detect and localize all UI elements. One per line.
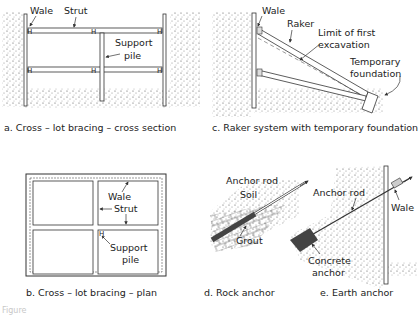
grout-label: Grout [236, 235, 263, 246]
limit-label-2: excavation [318, 39, 370, 50]
svg-text:H: H [99, 230, 104, 238]
caption-c: c. Raker system with temporary foundatio… [212, 122, 418, 133]
wale-label: Wale [30, 5, 53, 16]
caption-e: e. Earth anchor [320, 287, 393, 298]
strut-label: Strut [64, 5, 88, 16]
raker-label: Raker [287, 18, 314, 29]
svg-text:H: H [27, 67, 32, 75]
svg-text:H: H [91, 67, 96, 75]
wale-label: Wale [262, 5, 285, 16]
temporary-label-1: Temporary [349, 56, 401, 67]
wale-label: Wale [108, 191, 131, 202]
panel-e-earth-anchor: Anchor rod Wale Concrete anchor e. Earth… [290, 166, 417, 298]
panel-a-cross-section: HHH HHH Wale Strut Support pile a. Cross… [2, 5, 200, 133]
limit-label-1: Limit of first [318, 27, 376, 38]
svg-text:H: H [157, 28, 162, 36]
wale-label: Wale [391, 202, 414, 213]
caption-a: a. Cross – lot bracing – cross section [4, 122, 176, 133]
concrete-label-2: anchor [312, 267, 345, 278]
svg-text:H: H [91, 28, 96, 36]
caption-d: d. Rock anchor [204, 287, 275, 298]
support-label-2: pile [124, 50, 141, 61]
support-label-1: Support [110, 242, 148, 253]
soil-label: Soil [240, 189, 257, 200]
caption-b: b. Cross – lot bracing – plan [26, 287, 157, 298]
panel-c-raker-system: Wale Raker Limit of first excavation Tem… [212, 5, 418, 133]
figure-label: Figure [2, 306, 27, 315]
anchor-rod-label: Anchor rod [313, 187, 365, 198]
strut-label: Strut [114, 203, 138, 214]
anchor-rod-label: Anchor rod [226, 175, 278, 186]
support-label-2: pile [122, 254, 139, 265]
temporary-label-2: foundation [350, 68, 401, 79]
panel-b-plan: H Wale Strut Support pile b. Cross – lot… [2, 174, 166, 315]
bracing-diagram: HHH HHH Wale Strut Support pile a. Cross… [0, 0, 420, 316]
support-label-1: Support [115, 37, 153, 48]
concrete-label-1: Concrete [308, 255, 351, 266]
svg-text:H: H [157, 67, 162, 75]
svg-text:H: H [27, 28, 32, 36]
